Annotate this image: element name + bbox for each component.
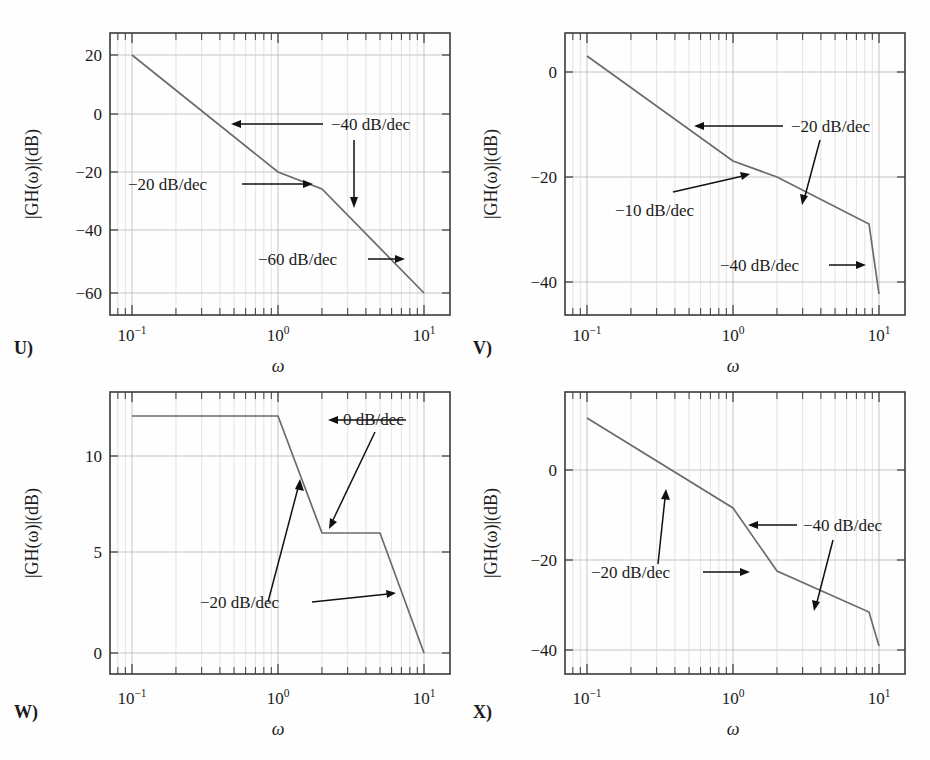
panel-label-x: X)	[473, 702, 492, 723]
annotation-minus40-x: −40 dB/dec	[748, 516, 882, 535]
annotation-label: −20 dB/dec	[791, 117, 870, 136]
panel-u: 20 0 −20 −40 −60 10−1 100 101 ω |GH(ω)|(…	[0, 0, 465, 380]
ticks-w	[110, 392, 450, 674]
x-axis-title-w: ω	[272, 719, 285, 739]
annotation-label: −20 dB/dec	[128, 175, 207, 194]
xtick-label-1e1: 101	[413, 687, 436, 708]
ytick-label: 20	[85, 46, 102, 65]
xtick-label-1e1: 101	[868, 324, 891, 345]
ytick-labels-x: 0 −20 −40	[530, 461, 557, 660]
annotation-label: −40 dB/dec	[803, 516, 882, 535]
annotation-minus20-uparrow-x	[658, 489, 670, 564]
x-axis-title-u: ω	[272, 356, 285, 376]
annotation-label: −20 dB/dec	[200, 593, 279, 612]
panel-x: 0 −20 −40 10−1 100 101 ω |GH(ω)|(dB) X) …	[465, 380, 930, 760]
ytick-label: 0	[549, 63, 558, 82]
xtick-labels-u: 10−1 100 101	[117, 324, 435, 345]
bode-plot-v: 0 −20 −40 10−1 100 101 ω |GH(ω)|(dB) V) …	[465, 0, 930, 380]
annotation-minus20-diagonal-w	[268, 479, 304, 602]
annotation-label: −40 dB/dec	[331, 115, 410, 134]
ytick-label: 0	[94, 105, 103, 124]
ytick-label: −60	[75, 284, 102, 303]
xtick-label-1e1: 101	[868, 687, 891, 708]
ytick-label: 0	[94, 644, 103, 663]
ytick-label: −40	[530, 641, 557, 660]
grid-w	[110, 392, 450, 674]
annotation-zero-diagonal-w	[329, 432, 375, 529]
annotation-minus20-downarrow-v	[800, 140, 820, 205]
xtick-label-1e0: 100	[267, 324, 290, 345]
grid-u	[110, 33, 450, 315]
ytick-label: −40	[530, 273, 557, 292]
ytick-label: 5	[94, 543, 103, 562]
figure-sheet: 20 0 −20 −40 −60 10−1 100 101 ω |GH(ω)|(…	[0, 0, 930, 760]
annotation-label: −40 dB/dec	[720, 256, 799, 275]
panel-v: 0 −20 −40 10−1 100 101 ω |GH(ω)|(dB) V) …	[465, 0, 930, 380]
bode-plot-u: 20 0 −20 −40 −60 10−1 100 101 ω |GH(ω)|(…	[0, 0, 465, 380]
panel-label-u: U)	[14, 338, 33, 359]
ytick-label: 10	[85, 447, 102, 466]
annotation-label: −10 dB/dec	[615, 201, 694, 220]
x-axis-title-v: ω	[727, 356, 740, 376]
bode-plot-w: 10 5 0 10−1 100 101 ω |GH(ω)|(dB) W) 0 d…	[0, 380, 465, 760]
xtick-label-1e-1: 10−1	[572, 687, 601, 708]
xtick-labels-w: 10−1 100 101	[117, 687, 435, 708]
annotation-zero-w: 0 dB/dec	[328, 410, 406, 429]
panel-label-w: W)	[14, 702, 38, 723]
xtick-label-1e0: 100	[722, 324, 745, 345]
ticks-u	[110, 33, 450, 315]
annotation-minus40-v: −40 dB/dec	[720, 256, 866, 275]
ytick-label: −20	[75, 163, 102, 182]
xtick-label-1e0: 100	[267, 687, 290, 708]
panel-label-v: V)	[473, 338, 492, 359]
xtick-label-1e-1: 10−1	[572, 324, 601, 345]
annotation-minus40-u: −40 dB/dec	[231, 115, 410, 134]
y-axis-title-x: |GH(ω)|(dB)	[481, 488, 502, 578]
ytick-labels-v: 0 −20 −40	[530, 63, 557, 292]
annotation-minus20-w: −20 dB/dec	[200, 590, 396, 612]
frame-w	[110, 392, 450, 674]
annotation-minus20-u: −20 dB/dec	[128, 175, 313, 194]
ytick-label: −20	[530, 168, 557, 187]
x-axis-title-x: ω	[727, 719, 740, 739]
panel-w: 10 5 0 10−1 100 101 ω |GH(ω)|(dB) W) 0 d…	[0, 380, 465, 760]
annotation-minus40-downarrow-x	[812, 540, 833, 611]
annotation-minus40-downarrow-u	[350, 140, 358, 208]
ytick-label: −40	[75, 221, 102, 240]
annotation-minus60-u: −60 dB/dec	[258, 250, 405, 269]
ytick-label: −20	[530, 551, 557, 570]
annotation-label: −60 dB/dec	[258, 250, 337, 269]
y-axis-title-u: |GH(ω)|(dB)	[22, 129, 43, 219]
xtick-label-1e-1: 10−1	[117, 324, 146, 345]
xtick-label-1e-1: 10−1	[117, 687, 146, 708]
xtick-labels-x: 10−1 100 101	[572, 687, 890, 708]
frame-u	[110, 33, 450, 315]
xtick-labels-v: 10−1 100 101	[572, 324, 890, 345]
annotation-minus20-v: −20 dB/dec	[694, 117, 870, 136]
ytick-labels-w: 10 5 0	[85, 447, 102, 663]
xtick-label-1e0: 100	[722, 687, 745, 708]
xtick-label-1e1: 101	[413, 324, 436, 345]
y-axis-title-w: |GH(ω)|(dB)	[22, 488, 43, 578]
y-axis-title-v: |GH(ω)|(dB)	[481, 129, 502, 219]
ytick-label: 0	[549, 461, 558, 480]
annotation-label: −20 dB/dec	[591, 563, 670, 582]
annotation-label: 0 dB/dec	[343, 410, 404, 429]
bode-plot-x: 0 −20 −40 10−1 100 101 ω |GH(ω)|(dB) X) …	[465, 380, 930, 760]
annotation-minus10-v: −10 dB/dec	[615, 172, 750, 220]
ytick-labels-u: 20 0 −20 −40 −60	[75, 46, 102, 303]
